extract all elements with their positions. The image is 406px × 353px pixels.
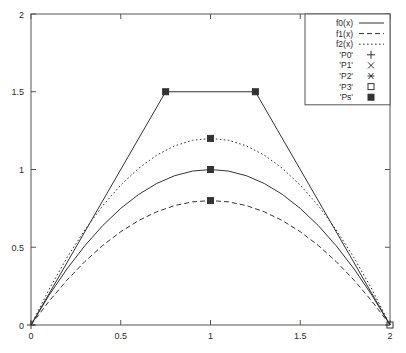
point-marker-'Ps' [163,89,169,95]
x-tick-label: 1.5 [294,331,307,341]
legend-marker-'Ps' [368,94,374,100]
chart-canvas: 00.511.52 00.511.52 f0(x)f1(x)f2(x)'P0''… [0,0,406,353]
y-tick-label: 0.5 [11,243,24,253]
legend-label-f0(x): f0(x) [336,18,353,28]
x-tick-label: 0 [28,331,33,341]
point-marker-'Ps' [252,89,258,95]
point-marker-'Ps' [208,198,214,204]
x-tick-label: 0.5 [114,331,127,341]
y-tick-label: 1.5 [11,87,24,97]
legend-label-'P2': 'P2' [339,71,353,81]
point-marker-'Ps' [208,167,214,173]
legend-label-'P0': 'P0' [339,50,353,60]
legend-label-f1(x): f1(x) [336,29,353,39]
legend-label-'P1': 'P1' [339,60,353,70]
y-tick-label: 0 [19,321,24,331]
x-tick-label: 2 [387,331,392,341]
point-marker-'Ps' [208,135,214,141]
legend-label-'P3': 'P3' [339,82,353,92]
legend-label-f2(x): f2(x) [336,39,353,49]
y-tick-label: 1 [19,165,24,175]
chart-legend: f0(x)f1(x)f2(x)'P0''P1''P2''P3''Ps' [305,14,390,105]
y-tick-label: 2 [19,10,24,20]
legend-label-'Ps': 'Ps' [340,92,354,102]
x-tick-label: 1 [208,331,213,341]
